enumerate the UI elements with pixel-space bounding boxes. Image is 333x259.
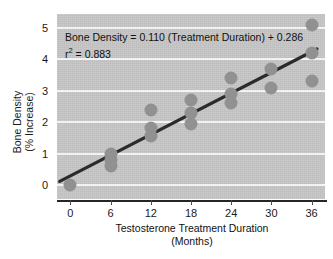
scatter-plot-figure: Bone Density(% Increase) 012345 Bone Den… [0,0,333,259]
x-axis-tick-mark [151,200,152,205]
data-point [265,62,278,75]
x-axis-tick-label: 6 [98,207,124,219]
regression-equation: Bone Density = 0.110 (Treatment Duration… [65,30,303,44]
y-axis-title-line1: Bone Density [11,91,23,153]
data-point [144,103,157,116]
x-axis-tick-mark [271,200,272,205]
regression-annotation: Bone Density = 0.110 (Treatment Duration… [65,30,303,61]
x-axis-tick-mark [70,200,71,205]
data-point [64,178,77,191]
data-point [185,94,198,107]
x-axis-tick-label: 36 [299,207,325,219]
x-axis-title: Testosterone Treatment Duration (Months) [57,222,327,248]
x-axis-title-line1: Testosterone Treatment Duration [116,222,269,234]
x-axis-line [57,200,327,202]
x-axis-tick-mark [312,200,313,205]
y-axis-tick-label: 2 [30,116,48,128]
data-point [265,81,278,94]
x-axis-tick-mark [111,200,112,205]
x-axis-tick-label: 12 [138,207,164,219]
data-point [305,18,318,31]
data-point [305,75,318,88]
x-axis-tick-mark [191,200,192,205]
x-axis-title-line2: (Months) [57,235,327,248]
data-point [305,47,318,60]
y-axis-tick-labels: 012345 [26,0,48,259]
r-squared-text: r2 = 0.883 [65,44,303,61]
data-point [144,130,157,143]
x-axis-tick-label: 24 [218,207,244,219]
y-axis-tick-label: 1 [30,148,48,160]
x-axis-tick-label: 30 [258,207,284,219]
y-axis-tick-label: 4 [30,53,48,65]
data-point [225,97,238,110]
data-point [104,160,117,173]
x-axis-tick-label: 18 [178,207,204,219]
y-axis-tick-label: 0 [30,179,48,191]
x-axis-tick-label: 0 [57,207,83,219]
data-point [185,117,198,130]
y-axis-tick-label: 3 [30,85,48,97]
r-squared-value: = 0.883 [73,48,111,60]
x-axis-tick-mark [231,200,232,205]
data-point [225,72,238,85]
y-axis-tick-label: 5 [30,22,48,34]
